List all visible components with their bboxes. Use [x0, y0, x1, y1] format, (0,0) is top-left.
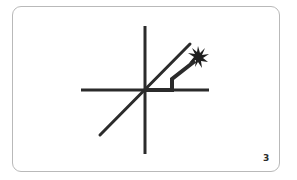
page-number: 3	[263, 153, 269, 163]
diagram	[0, 0, 297, 180]
